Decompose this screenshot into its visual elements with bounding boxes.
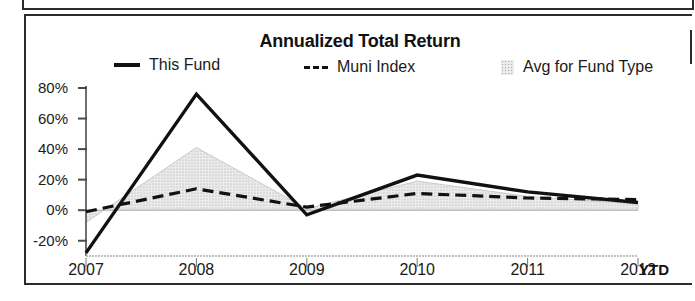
dashed-line-swatch-icon (304, 66, 328, 69)
series-avg-for-fund-type (86, 148, 638, 223)
shaded-area-swatch-icon (501, 60, 514, 75)
legend-label-this-fund: This Fund (149, 56, 220, 74)
legend-label-muni-index: Muni Index (337, 58, 415, 76)
chart-title: Annualized Total Return (26, 31, 694, 52)
y-tick-label: 20% (10, 171, 68, 188)
x-tick-label: 2010 (382, 261, 452, 279)
x-tick-label: 2007 (51, 261, 121, 279)
x-axis-ytd-label: YTD (639, 261, 669, 278)
chart-legend: This Fund Muni Index Avg for Fund Type (26, 56, 694, 78)
annualized-total-return-panel: Annualized Total Return This Fund Muni I… (24, 14, 692, 285)
adjacent-panel-strip (22, 0, 694, 10)
y-tick-label: -20% (10, 232, 68, 249)
y-tick-label: 80% (10, 79, 68, 96)
y-tick-label: 60% (10, 110, 68, 127)
legend-item-avg-for-fund-type: Avg for Fund Type (501, 58, 653, 76)
x-tick-label: 2011 (493, 261, 563, 279)
y-tick-label: 0% (10, 201, 68, 218)
legend-label-avg-for-fund-type: Avg for Fund Type (523, 58, 653, 76)
x-axis-line (86, 255, 638, 258)
legend-item-this-fund: This Fund (114, 56, 220, 74)
annualized-total-return-plot (26, 78, 694, 286)
x-tick-label: 2009 (272, 261, 342, 279)
solid-line-swatch-icon (114, 63, 140, 67)
legend-item-muni-index: Muni Index (304, 58, 415, 76)
plot-area (26, 78, 694, 286)
x-tick-label: 2008 (161, 261, 231, 279)
y-tick-label: 40% (10, 140, 68, 157)
